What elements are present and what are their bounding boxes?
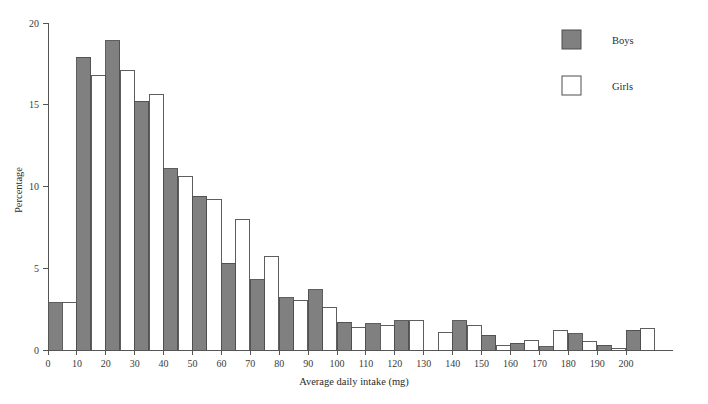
x-tick-label: 90 bbox=[303, 358, 313, 369]
bar-girls bbox=[62, 303, 76, 350]
x-tick-label: 200 bbox=[619, 358, 634, 369]
bar-girls bbox=[554, 330, 568, 350]
bar-girls bbox=[91, 75, 105, 350]
bar-boys bbox=[597, 345, 611, 350]
x-tick-label: 50 bbox=[188, 358, 198, 369]
legend-label-boys: Boys bbox=[612, 35, 634, 46]
y-tick-label: 10 bbox=[29, 181, 39, 192]
legend-label-girls: Girls bbox=[612, 81, 633, 92]
bar-boys bbox=[135, 101, 149, 350]
bar-girls bbox=[583, 342, 597, 350]
bar-girls bbox=[323, 307, 337, 350]
bar-girls bbox=[409, 321, 423, 350]
bar-girls bbox=[467, 325, 481, 350]
bar-boys bbox=[510, 343, 524, 350]
bar-girls bbox=[352, 327, 366, 350]
bar-boys bbox=[77, 57, 91, 350]
x-tick-label: 150 bbox=[474, 358, 489, 369]
legend-swatch-girls bbox=[562, 76, 581, 95]
bar-girls bbox=[178, 177, 192, 350]
bar-boys bbox=[626, 330, 640, 350]
bar-girls bbox=[496, 345, 510, 350]
x-tick-label: 180 bbox=[561, 358, 576, 369]
y-tick-label: 15 bbox=[29, 99, 39, 110]
y-tick-label: 20 bbox=[29, 18, 39, 29]
bar-girls bbox=[525, 340, 539, 350]
x-tick-label: 130 bbox=[416, 358, 431, 369]
x-tick-label: 110 bbox=[359, 358, 374, 369]
bar-boys bbox=[250, 280, 264, 350]
bar-boys bbox=[164, 169, 178, 350]
bar-boys bbox=[106, 41, 120, 350]
bar-boys bbox=[482, 335, 496, 350]
bar-girls bbox=[207, 200, 221, 350]
x-tick-label: 30 bbox=[130, 358, 140, 369]
x-tick-label: 160 bbox=[503, 358, 518, 369]
x-tick-label: 10 bbox=[72, 358, 82, 369]
bar-boys bbox=[221, 263, 235, 350]
bar-girls bbox=[380, 325, 394, 350]
bar-girls bbox=[641, 329, 655, 350]
x-tick-label: 190 bbox=[590, 358, 605, 369]
bar-girls bbox=[265, 257, 279, 350]
x-tick-label: 60 bbox=[216, 358, 226, 369]
bar-boys bbox=[568, 334, 582, 350]
legend-swatch-boys bbox=[562, 30, 581, 49]
bar-boys bbox=[337, 322, 351, 350]
x-tick-label: 80 bbox=[274, 358, 284, 369]
bar-boys bbox=[453, 321, 467, 350]
legend: Boys Girls bbox=[562, 30, 634, 95]
bar-girls bbox=[149, 95, 163, 350]
x-tick-label: 70 bbox=[245, 358, 255, 369]
x-tick-label: 140 bbox=[445, 358, 460, 369]
y-axis-title: Percentage bbox=[13, 167, 24, 213]
y-tick-label: 5 bbox=[34, 263, 39, 274]
bar-boys bbox=[395, 321, 409, 350]
y-tick-label: 0 bbox=[34, 345, 39, 356]
bar-girls bbox=[120, 70, 134, 350]
bar-girls bbox=[236, 219, 250, 350]
x-tick-label: 170 bbox=[532, 358, 547, 369]
bar-boys bbox=[279, 298, 293, 350]
x-tick-label: 120 bbox=[387, 358, 402, 369]
histogram-chart: 0102030405060708090100110120130140150160… bbox=[0, 0, 708, 404]
bar-boys bbox=[193, 196, 207, 350]
bar-girls bbox=[294, 301, 308, 350]
chart-container: 0102030405060708090100110120130140150160… bbox=[0, 0, 708, 404]
bar-girls bbox=[438, 332, 452, 350]
bar-boys bbox=[308, 290, 322, 351]
bar-boys bbox=[48, 303, 62, 350]
x-axis-title: Average daily intake (mg) bbox=[299, 376, 409, 388]
x-tick-label: 20 bbox=[101, 358, 111, 369]
plot-area: 0102030405060708090100110120130140150160… bbox=[29, 18, 673, 370]
x-tick-label: 100 bbox=[330, 358, 345, 369]
bar-boys bbox=[366, 324, 380, 350]
x-tick-label: 0 bbox=[46, 358, 51, 369]
x-tick-label: 40 bbox=[159, 358, 169, 369]
